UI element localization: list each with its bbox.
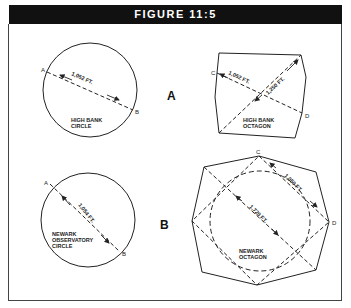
high-bank-octagon-diagonal-label: 1,052 FT. (228, 69, 252, 84)
high-bank-circle-name-2: CIRCLE (71, 123, 92, 129)
diagram-canvas: 1,052 FT. A B HIGH BANK CIRCLE A 1,052 F… (0, 0, 351, 308)
point-b-label-b: B (122, 251, 126, 257)
point-c-label: C (211, 70, 216, 76)
point-c-label-b: C (256, 149, 261, 155)
high-bank-circle: 1,052 FT. A B HIGH BANK CIRCLE (41, 43, 139, 137)
newark-circle-name-3: CIRCLE (52, 243, 73, 249)
point-b-label: B (135, 109, 139, 115)
newark-octagon-name-2: OCTAGON (239, 254, 267, 260)
panel-a-label: A (167, 89, 176, 103)
point-d-label: D (305, 113, 310, 119)
point-a-label-b: A (44, 180, 48, 186)
panel-b-label: B (160, 218, 169, 232)
newark-observatory-circle: 1,054 FT. A B NEWARK OBSERVATORY CIRCLE (41, 173, 135, 267)
high-bank-octagon-cross-label: 1,250 FT. (265, 75, 286, 95)
newark-octagon-diagonal-label: 1,720 FT. (248, 203, 269, 224)
newark-octagon: 1,050 FT. 1,720 FT. C D NEWARK OCTAGON (192, 149, 337, 285)
high-bank-octagon: 1,052 FT. 1,250 FT. C D HIGH BANK OCTAGO… (211, 53, 310, 138)
high-bank-circle-diameter-label: 1,052 FT. (71, 70, 95, 85)
point-a-label: A (41, 67, 45, 73)
high-bank-octagon-name-2: OCTAGON (243, 123, 271, 129)
newark-octagon-side-label: 1,050 FT. (283, 172, 304, 193)
point-d-label-b: D (332, 220, 337, 226)
